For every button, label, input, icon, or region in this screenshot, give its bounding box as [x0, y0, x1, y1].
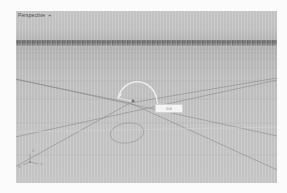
object-base-ellipse — [109, 121, 145, 146]
grid-highlight-line — [16, 127, 277, 132]
viewport-label-plus: + — [48, 12, 51, 18]
grid-horizontal-lines — [16, 49, 277, 155]
viewport-grid-layer — [16, 11, 277, 183]
app-root: Perspective+ 0.0 Z X Y — [0, 0, 287, 193]
measurement-tooltip: 0.0 — [155, 104, 183, 113]
arc-chord-line — [118, 98, 132, 101]
viewport-label-text: Perspective — [18, 12, 45, 18]
arc-dome-outline — [118, 82, 156, 98]
axis-label-x: X — [18, 165, 21, 169]
arc-center-handle[interactable] — [132, 100, 135, 103]
perspective-viewport[interactable]: Perspective+ 0.0 Z X Y — [16, 11, 277, 183]
axis-label-y: Y — [40, 163, 43, 167]
viewport-label[interactable]: Perspective+ — [18, 12, 51, 19]
axis-label-z: Z — [32, 149, 34, 153]
